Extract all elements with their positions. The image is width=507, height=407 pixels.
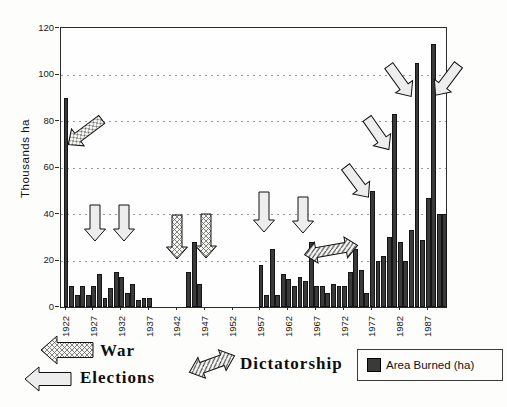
ytick-label-0: 0 (22, 301, 54, 312)
xtick-mark-1982 (399, 307, 400, 310)
bar-1986 (420, 240, 425, 307)
gridline-40 (61, 214, 446, 215)
xtick-label-1952: 1952 (227, 309, 238, 343)
bar-1945 (192, 242, 197, 307)
xtick-label-1937: 1937 (143, 309, 154, 343)
xtick-mark-1927 (92, 307, 93, 310)
ytick-label-40: 40 (22, 208, 54, 219)
bar-1931 (114, 272, 119, 307)
xtick-label-1932: 1932 (115, 309, 126, 343)
bar-1928 (97, 274, 102, 307)
xtick-mark-1932 (120, 307, 121, 310)
bar-1965 (303, 281, 308, 307)
bar-1976 (364, 293, 369, 307)
bar-1930 (108, 288, 113, 307)
bar-1990 (442, 214, 447, 307)
bar-1978 (376, 261, 381, 308)
xtick-mark-1967 (315, 307, 316, 310)
bar-1967 (314, 286, 319, 307)
plot-area (60, 27, 447, 308)
area-burned-label: Area Burned (ha) (386, 359, 474, 371)
legend-box: Area Burned (ha) (357, 349, 503, 381)
bar-1960 (275, 295, 280, 307)
xtick-label-1922: 1922 (60, 309, 71, 343)
xtick-label-1942: 1942 (171, 309, 182, 343)
bar-1982 (398, 242, 403, 307)
xtick-mark-1937 (148, 307, 149, 310)
bar-1989 (437, 214, 442, 307)
ytick-mark-0 (55, 306, 59, 307)
xtick-label-1962: 1962 (282, 309, 293, 343)
bar-1923 (69, 286, 74, 307)
bar-1981 (392, 114, 397, 307)
xtick-mark-1952 (232, 307, 233, 310)
xtick-label-1957: 1957 (254, 309, 265, 343)
xtick-mark-1977 (371, 307, 372, 310)
bar-1963 (292, 286, 297, 307)
ytick-mark-40 (55, 213, 59, 214)
bar-1974 (353, 249, 358, 307)
bar-1925 (80, 286, 85, 307)
bar-1929 (103, 298, 108, 307)
bar-1922 (64, 98, 69, 307)
bar-1926 (86, 295, 91, 307)
gridline-80 (61, 121, 446, 122)
ytick-mark-120 (55, 27, 59, 28)
ytick-label-120: 120 (22, 22, 54, 33)
ytick-mark-80 (55, 120, 59, 121)
ytick-mark-20 (55, 260, 59, 261)
xtick-label-1927: 1927 (87, 309, 98, 343)
bar-1975 (359, 270, 364, 307)
legend-war-label: War (100, 341, 135, 361)
xtick-mark-1947 (204, 307, 205, 310)
xtick-label-1987: 1987 (422, 309, 433, 343)
xtick-mark-1957 (259, 307, 260, 310)
legend-elections-arrow-icon (25, 367, 71, 391)
bar-1984 (409, 230, 414, 307)
bar-1946 (197, 284, 202, 307)
ytick-label-20: 20 (22, 254, 54, 265)
bar-1924 (75, 295, 80, 307)
legend-dictatorship-label: Dictatorship (240, 354, 343, 374)
ytick-label-60: 60 (22, 161, 54, 172)
xtick-label-1982: 1982 (394, 309, 405, 343)
xtick-mark-1972 (343, 307, 344, 310)
ytick-label-100: 100 (22, 68, 54, 79)
bar-1980 (387, 237, 392, 307)
bar-1969 (325, 293, 330, 307)
ytick-mark-100 (55, 74, 59, 75)
bar-1959 (270, 249, 275, 307)
legend-elections-label: Elections (80, 368, 155, 388)
bar-1964 (298, 277, 303, 307)
legend-dictatorship-arrow-icon (186, 345, 239, 382)
xtick-mark-1922 (65, 307, 66, 310)
bar-1973 (348, 272, 353, 307)
bar-1937 (147, 298, 152, 307)
xtick-mark-1962 (287, 307, 288, 310)
ytick-mark-60 (55, 167, 59, 168)
bar-1935 (136, 300, 141, 307)
bar-1972 (342, 286, 347, 307)
bar-1962 (286, 279, 291, 307)
xtick-label-1947: 1947 (199, 309, 210, 343)
bar-1961 (281, 274, 286, 307)
bar-1979 (381, 256, 386, 307)
bar-1966 (309, 242, 314, 307)
fire-history-chart: Thousands ha 020406080100120 19221927193… (0, 0, 507, 407)
bar-1988 (431, 44, 436, 307)
bar-1944 (186, 272, 191, 307)
bar-1968 (320, 286, 325, 307)
bar-1936 (142, 298, 147, 307)
area-burned-swatch (367, 358, 381, 372)
bar-1977 (370, 191, 375, 307)
xtick-label-1972: 1972 (338, 309, 349, 343)
bar-1927 (91, 286, 96, 307)
bar-1983 (403, 261, 408, 308)
bar-1985 (415, 63, 420, 307)
gridline-100 (61, 75, 446, 76)
gridline-60 (61, 168, 446, 169)
bar-1970 (331, 284, 336, 307)
xtick-mark-1942 (176, 307, 177, 310)
bar-1987 (426, 198, 431, 307)
bar-1933 (125, 293, 130, 307)
